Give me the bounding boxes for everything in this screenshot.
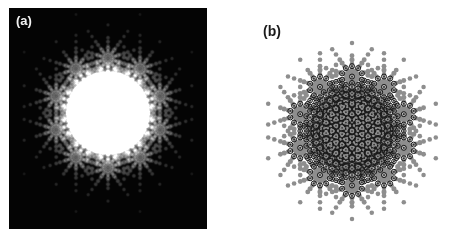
panel-b-label: (b) (263, 23, 281, 39)
figure-container: (a) (b) (0, 0, 459, 240)
panel-a-electron-diffraction: (a) (9, 8, 207, 229)
panel-b-calculated-pattern (247, 20, 459, 240)
panel-b-pattern-canvas (247, 20, 459, 240)
panel-a-diffraction-canvas (9, 8, 207, 229)
panel-a-label: (a) (16, 13, 32, 28)
